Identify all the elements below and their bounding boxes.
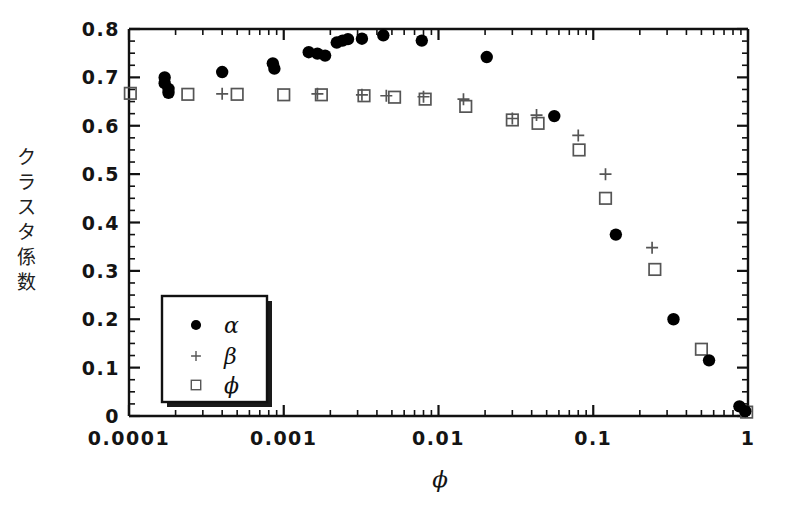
marker-filled-circle — [548, 110, 560, 122]
y-tick-label: 0.7 — [82, 66, 120, 88]
y-axis-tick-labels: 00.10.20.30.40.50.60.70.8 — [82, 18, 120, 427]
y-tick-label: 0.6 — [82, 115, 120, 137]
y-axis-title-char: 数 — [17, 271, 36, 293]
y-tick-label: 0.1 — [82, 357, 120, 379]
y-tick-label: 0.5 — [82, 163, 120, 185]
x-axis-title: ϕ — [432, 466, 448, 492]
marker-filled-circle — [216, 66, 228, 78]
legend: αβϕ — [162, 296, 272, 407]
legend-label: ϕ — [224, 373, 239, 398]
marker-open-square — [696, 343, 708, 355]
marker-filled-circle — [703, 354, 715, 366]
y-axis-title: クラスタ係数 — [17, 146, 36, 293]
marker-filled-circle — [739, 405, 751, 417]
marker-open-square — [358, 90, 370, 102]
marker-open-square — [460, 101, 472, 113]
legend-box — [162, 296, 267, 402]
marker-plus — [600, 168, 612, 180]
y-axis-title-char: ク — [17, 146, 36, 168]
marker-filled-circle — [416, 34, 428, 46]
marker-plus — [646, 242, 658, 254]
marker-filled-circle — [162, 87, 174, 99]
x-tick-label: 0.1 — [574, 427, 612, 449]
x-axis-tick-labels: 0.00010.0010.010.11 — [88, 427, 756, 449]
figure-canvas: 0.00010.0010.010.11 00.10.20.30.40.50.60… — [0, 0, 788, 510]
y-axis-title-char: 係 — [17, 246, 36, 268]
y-axis-title-char: ラ — [17, 171, 36, 193]
marker-open-square — [649, 264, 661, 276]
marker-filled-circle — [667, 313, 679, 325]
marker-open-square — [389, 91, 401, 103]
marker-plus — [572, 129, 584, 141]
legend-label: α — [224, 313, 239, 338]
scatter-plot: 0.00010.0010.010.11 00.10.20.30.40.50.60… — [0, 0, 788, 510]
marker-open-square — [532, 118, 544, 130]
marker-open-square — [573, 144, 585, 156]
marker-plus — [216, 88, 228, 100]
marker-open-square — [600, 193, 612, 205]
y-tick-label: 0 — [105, 405, 120, 427]
marker-filled-circle — [610, 228, 622, 240]
marker-filled-circle — [481, 51, 493, 63]
y-tick-label: 0.3 — [82, 260, 120, 282]
x-tick-label: 0.001 — [250, 427, 318, 449]
x-tick-label: 0.0001 — [88, 427, 170, 449]
marker-open-square — [278, 89, 290, 101]
marker-open-square — [419, 93, 431, 105]
y-tick-label: 0.8 — [82, 18, 120, 40]
marker-filled-circle — [377, 29, 389, 41]
marker-filled-circle — [268, 62, 280, 74]
marker-filled-circle — [356, 32, 368, 44]
y-tick-label: 0.4 — [82, 212, 120, 234]
x-tick-label: 0.01 — [412, 427, 465, 449]
marker-open-square — [231, 89, 243, 101]
marker-filled-circle — [191, 320, 201, 330]
marker-filled-circle — [319, 49, 331, 61]
y-axis-title-char: ス — [17, 196, 36, 218]
y-axis-title-char: タ — [17, 221, 36, 243]
marker-open-square — [182, 89, 194, 101]
x-tick-label: 1 — [741, 427, 756, 449]
marker-filled-circle — [342, 33, 354, 45]
series-marks-beta — [216, 88, 658, 254]
legend-label: β — [223, 344, 237, 369]
y-tick-label: 0.2 — [82, 308, 120, 330]
